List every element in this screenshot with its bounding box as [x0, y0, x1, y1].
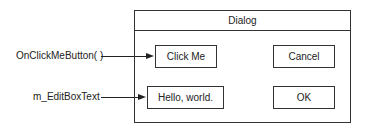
click-me-button[interactable]: Click Me: [155, 45, 217, 68]
ok-button[interactable]: OK: [273, 86, 335, 109]
edit-box[interactable]: Hello, world.: [147, 86, 224, 109]
annotation-onclickmebutton: OnClickMeButton( ): [16, 50, 103, 62]
annotation-m-editboxtext: m_EditBoxText: [33, 91, 100, 103]
cancel-button[interactable]: Cancel: [273, 45, 335, 68]
dialog-title: Dialog: [135, 11, 350, 31]
